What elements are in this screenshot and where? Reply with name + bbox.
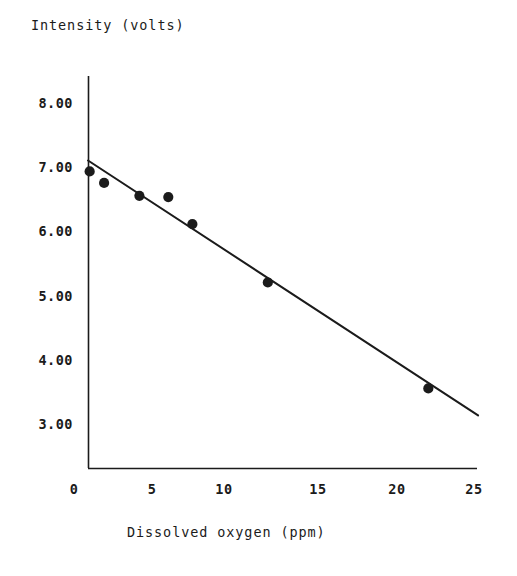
scatter-marker-group	[85, 166, 434, 393]
data-point	[163, 192, 173, 202]
data-point	[423, 383, 433, 393]
data-point	[134, 191, 144, 201]
data-point	[187, 219, 197, 229]
data-point	[263, 277, 273, 287]
plot-area	[0, 0, 517, 576]
data-point	[85, 166, 95, 176]
data-point	[99, 178, 109, 188]
fitted-trend-line	[88, 161, 478, 416]
chart-figure: Intensity (volts) Dissolved oxygen (ppm)…	[0, 0, 517, 576]
